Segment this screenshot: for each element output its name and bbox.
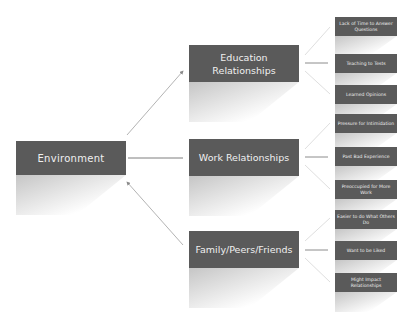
leaf-node: Learned Opinions [335, 85, 397, 104]
connector-education-leaf3 [305, 71, 330, 94]
leaf-node: Lack of Time to Answer Questions [335, 17, 397, 36]
connector-work-leaf1 [305, 123, 330, 149]
branch-node-education: Education Relationships [189, 45, 299, 82]
connector-education-leaf1 [305, 27, 330, 55]
leaf-node: Preoccupied for More Work [335, 180, 397, 199]
connector-family-leaf3 [305, 258, 330, 282]
connector-work-leaf3 [305, 165, 330, 189]
leaf-node: Easier to do What Others Do [335, 210, 397, 229]
root-node-environment: Environment [16, 141, 126, 175]
leaf-node: Past Bad Experience [335, 147, 397, 166]
connector-root-family [127, 182, 183, 245]
leaf-node: Pressure for Intimidation [335, 114, 397, 133]
leaf-node: Want to be Liked [335, 241, 397, 260]
branch-node-family: Family/Peers/Friends [189, 231, 299, 268]
leaf-node: Teaching to Tests [335, 54, 397, 73]
branch-node-work: Work Relationships [189, 139, 299, 176]
connector-family-leaf1 [305, 218, 330, 241]
connector-root-education [127, 71, 183, 135]
leaf-node: Might Impact Relationships [335, 273, 397, 292]
